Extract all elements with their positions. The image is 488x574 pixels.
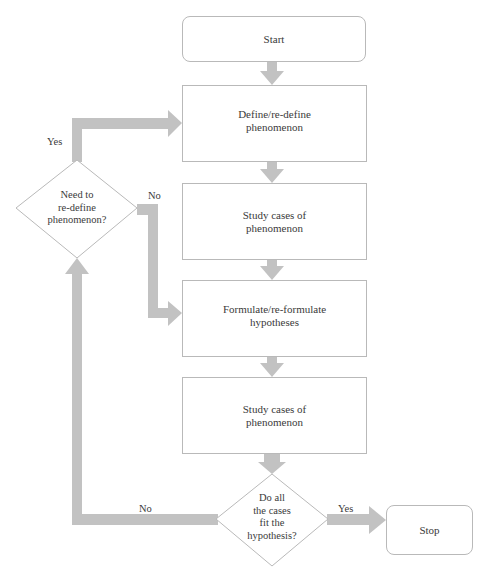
decision-fit-text: Do all the cases fit the hypothesis? <box>226 492 318 542</box>
study1-label-line2: phenomenon <box>243 222 307 235</box>
arrow-start-to-define <box>260 62 284 85</box>
edge-label-redefine-yes: Yes <box>47 136 62 147</box>
stop-node: Stop <box>386 505 473 555</box>
formulate-label-line1: Formulate/re-formulate <box>223 303 326 316</box>
decision-fit-line1: Do all <box>226 492 318 505</box>
define-label-line1: Define/re-define <box>238 108 311 121</box>
study2-label-line2: phenomenon <box>243 416 307 429</box>
formulate-hypotheses-node: Formulate/re-formulate hypotheses <box>182 280 367 357</box>
arrow-redefine-yes <box>72 110 182 162</box>
arrow-formulate-to-study2 <box>260 357 284 377</box>
arrow-decision-to-stop <box>327 506 386 534</box>
define-label-line2: phenomenon <box>238 121 311 134</box>
define-phenomenon-node: Define/re-define phenomenon <box>182 85 367 162</box>
study2-label-line1: Study cases of <box>243 403 307 416</box>
decision-redefine-line3: phenomenon? <box>27 214 127 227</box>
arrow-define-to-study1 <box>260 162 284 183</box>
edge-label-fit-yes: Yes <box>338 503 353 514</box>
stop-label: Stop <box>419 524 439 537</box>
decision-fit-line3: fit the <box>226 517 318 530</box>
formulate-label-line2: hypotheses <box>223 316 326 329</box>
arrow-study1-to-formulate <box>260 260 284 280</box>
decision-fit-line2: the cases <box>226 505 318 518</box>
arrow-study2-to-decision <box>258 454 286 474</box>
study-cases-node-2: Study cases of phenomenon <box>182 377 367 454</box>
study-cases-node-1: Study cases of phenomenon <box>182 183 367 260</box>
arrow-redefine-no <box>137 204 182 326</box>
edge-label-redefine-no: No <box>148 190 161 201</box>
edge-label-fit-no: No <box>139 503 152 514</box>
start-label: Start <box>264 33 285 46</box>
study1-label-line1: Study cases of <box>243 209 307 222</box>
decision-redefine-line1: Need to <box>27 189 127 202</box>
decision-redefine-text: Need to re-define phenomenon? <box>27 189 127 227</box>
decision-redefine-line2: re-define <box>27 202 127 215</box>
start-node: Start <box>182 16 366 62</box>
decision-fit-line4: hypothesis? <box>226 530 318 543</box>
